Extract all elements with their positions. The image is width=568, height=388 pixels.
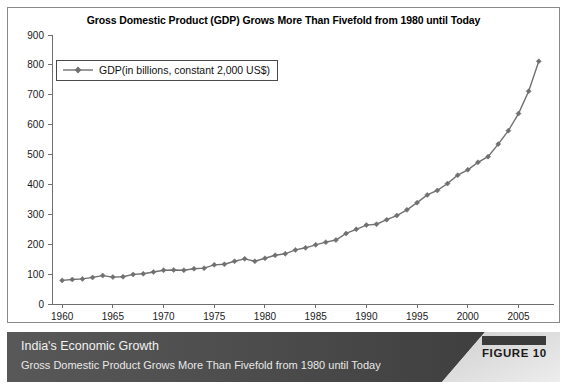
svg-text:1970: 1970	[152, 311, 175, 322]
figure-number-label: FIGURE 10	[482, 347, 554, 359]
svg-text:600: 600	[27, 119, 44, 130]
svg-text:700: 700	[27, 89, 44, 100]
svg-text:1980: 1980	[254, 311, 277, 322]
caption-subtitle: Gross Domestic Product Grows More Than F…	[21, 356, 381, 374]
svg-text:2005: 2005	[507, 311, 530, 322]
svg-text:300: 300	[27, 209, 44, 220]
svg-text:1990: 1990	[355, 311, 378, 322]
chart-panel: Gross Domestic Product (GDP) Grows More …	[7, 7, 560, 323]
svg-text:400: 400	[27, 179, 44, 190]
svg-text:1960: 1960	[51, 311, 74, 322]
gdp-line-chart: 0100200300400500600700800900196019651970…	[8, 8, 559, 322]
svg-text:1995: 1995	[406, 311, 429, 322]
figure-number-badge: FIGURE 10	[482, 336, 554, 359]
svg-text:2000: 2000	[457, 311, 480, 322]
svg-text:800: 800	[27, 59, 44, 70]
caption-text-block: India's Economic Growth Gross Domestic P…	[21, 337, 381, 374]
svg-text:900: 900	[27, 30, 44, 41]
figure-caption-bar: India's Economic Growth Gross Domestic P…	[7, 332, 560, 382]
svg-text:100: 100	[27, 269, 44, 280]
caption-title: India's Economic Growth	[21, 337, 381, 356]
chart-series	[60, 59, 542, 283]
svg-text:500: 500	[27, 149, 44, 160]
svg-text:0: 0	[38, 299, 44, 310]
legend-line-marker-icon	[63, 65, 93, 75]
svg-text:1975: 1975	[203, 311, 226, 322]
svg-text:1965: 1965	[102, 311, 125, 322]
svg-text:1985: 1985	[305, 311, 328, 322]
badge-accent-bar	[482, 336, 546, 345]
chart-legend: GDP(in billions, constant 2,000 US$)	[56, 60, 278, 81]
svg-text:200: 200	[27, 239, 44, 250]
figure-container: Gross Domestic Product (GDP) Grows More …	[0, 0, 568, 388]
legend-label: GDP(in billions, constant 2,000 US$)	[99, 64, 270, 76]
